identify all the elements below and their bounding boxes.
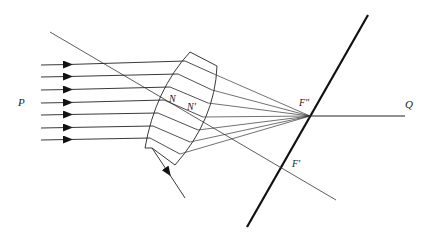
optics-diagram: P N N' F" F' Q: [0, 0, 430, 242]
label-q: Q: [405, 98, 413, 110]
label-p: P: [17, 96, 25, 108]
focal-plane-line: [247, 15, 368, 227]
diagram-canvas: P N N' F" F' Q: [0, 0, 430, 242]
converging-rays: [180, 74, 310, 154]
exit-ray: [152, 148, 168, 172]
label-n: N: [168, 93, 177, 104]
refracted-rays-in-lens: [150, 61, 214, 154]
incident-rays: [41, 61, 185, 140]
label-n-prime: N': [186, 101, 197, 112]
label-f-prime: F': [291, 158, 301, 169]
label-f-double-prime: F": [298, 97, 310, 108]
exit-ray-tail: [168, 172, 185, 198]
